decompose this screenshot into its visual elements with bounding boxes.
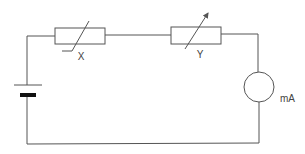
wire-top-left xyxy=(27,36,55,85)
variable-resistor-y: Y xyxy=(171,13,221,60)
resistor-body xyxy=(171,27,221,44)
label-y: Y xyxy=(197,49,204,60)
battery-negative-plate xyxy=(20,93,36,97)
circuit-diagram: X Y mA xyxy=(0,0,305,154)
wire-y-to-meter xyxy=(221,34,258,72)
label-x: X xyxy=(78,51,85,62)
thermistor-x: X xyxy=(55,21,105,62)
battery xyxy=(14,85,42,97)
wires xyxy=(27,34,259,144)
label-meter: mA xyxy=(280,93,295,104)
milliammeter: mA xyxy=(244,72,295,104)
wire-bottom xyxy=(27,96,259,144)
meter-circle xyxy=(244,72,274,102)
